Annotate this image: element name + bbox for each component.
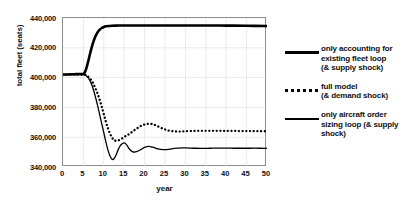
x-tick-45: 45 [236,169,256,178]
x-tick-5: 5 [72,169,92,178]
legend-swatch-solid-thick-icon [285,47,319,57]
x-tick-15: 15 [113,169,133,178]
legend-item-existing-fleet-loop[interactable]: only accounting for existing fleet loop … [285,44,409,73]
legend-item-full-model[interactable]: full model (& demand shock) [285,82,409,101]
x-axis-title: year [62,184,267,193]
y-axis-tick-labels: 440,000 420,000 400,000 380,000 360,000 … [8,0,56,206]
legend-item-order-sizing-loop[interactable]: only aircraft order sizing loop (& suppl… [285,110,409,139]
chart-figure: total fleet (seats) 440,000 420,000 400,… [0,0,409,206]
y-tick-400000: 400,000 [10,73,56,82]
x-tick-30: 30 [174,169,194,178]
legend-label-line2: (& demand shock) [321,91,388,100]
x-tick-40: 40 [215,169,235,178]
legend-label-line1: only aircraft order [321,110,387,119]
x-tick-50: 50 [256,169,276,178]
legend-swatch-dotted-icon [285,85,319,95]
legend-label-line3: shock) [321,129,346,138]
x-tick-20: 20 [134,169,154,178]
y-tick-380000: 380,000 [10,103,56,112]
plot-area [62,17,266,166]
legend-label-line1: full model [321,82,357,91]
y-tick-440000: 440,000 [10,14,56,23]
legend-label-line1: only accounting for [321,44,392,53]
y-tick-360000: 360,000 [10,133,56,142]
plot-canvas [63,18,267,167]
legend-label-line2: sizing loop (& supply [321,120,398,129]
y-tick-340000: 340,000 [10,163,56,172]
x-tick-0: 0 [52,169,72,178]
chart-legend: only accounting for existing fleet loop … [285,44,409,148]
x-tick-25: 25 [154,169,174,178]
x-tick-10: 10 [93,169,113,178]
legend-label-line3: (& supply shock) [321,63,383,72]
x-tick-35: 35 [195,169,215,178]
legend-label-line2: existing fleet loop [321,54,386,63]
y-tick-420000: 420,000 [10,43,56,52]
legend-swatch-solid-thin-icon [285,113,319,123]
